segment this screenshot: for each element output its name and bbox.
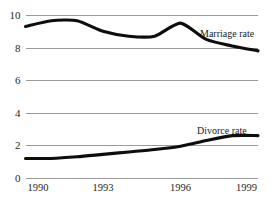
y-tick-label-8: 8 [15,42,21,54]
line-chart: 0246810 1990199319961999 Marriage rateDi… [0,0,272,208]
series-label-marriage: Marriage rate [200,28,255,39]
gridlines-group [26,16,259,179]
y-tick-label-6: 6 [15,74,21,86]
x-axis-tick-labels: 1990199319961999 [28,182,258,193]
y-tick-label-10: 10 [10,9,22,21]
chart-container: 0246810 1990199319961999 Marriage rateDi… [0,0,272,208]
y-tick-label-4: 4 [15,107,21,119]
y-axis-tick-labels: 0246810 [10,9,22,184]
series-lines-group [26,20,259,159]
series-label-divorce: Divorce rate [197,125,247,136]
x-tick-label-1993: 1993 [93,182,114,193]
x-tick-label-1990: 1990 [28,182,49,193]
y-tick-label-2: 2 [15,139,21,151]
y-tick-label-0: 0 [15,172,21,184]
x-tick-label-1999: 1999 [236,182,257,193]
x-tick-label-1996: 1996 [170,182,191,193]
series-line-divorce-rate [26,135,259,158]
